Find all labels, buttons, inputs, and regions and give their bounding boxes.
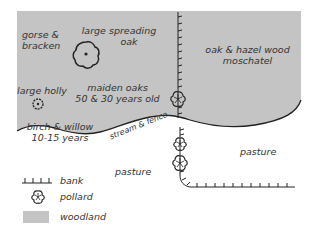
label-birch-willow: birch & willow 10-15 years	[25, 121, 95, 143]
label-maiden-oaks: maiden oaks 50 & 30 years old	[75, 82, 160, 104]
label-spreading-oak: large spreading oak	[74, 25, 164, 47]
label-line: oak & hazel wood	[200, 44, 295, 55]
label-line: birch & willow	[25, 121, 95, 132]
label-large-holly: large holly	[17, 85, 67, 96]
label-line: pasture	[240, 146, 276, 157]
label-line: large holly	[17, 85, 67, 96]
legend-pollard-label: pollard	[60, 191, 93, 202]
label-line: large spreading	[74, 25, 164, 36]
legend-woodland-swatch	[23, 211, 49, 223]
label-oak-hazel: oak & hazel wood moschatel	[200, 44, 295, 66]
label-line: pasture	[115, 166, 151, 177]
bank-pasture-edge	[180, 127, 295, 187]
label-line: oak	[74, 36, 164, 47]
label-line: maiden oaks	[75, 82, 160, 93]
legend-bank-icon	[22, 178, 52, 183]
legend-bank-label: bank	[60, 175, 83, 186]
label-gorse-bracken: gorse & bracken	[22, 29, 60, 51]
legend-woodland-label: woodland	[60, 211, 106, 222]
label-pasture-left: pasture	[115, 166, 151, 177]
label-line: gorse &	[22, 29, 60, 40]
label-line: 10-15 years	[25, 132, 95, 143]
label-line: moschatel	[200, 55, 295, 66]
legend-pollard-icon	[32, 191, 45, 203]
label-line: 50 & 30 years old	[75, 93, 160, 104]
label-line: bracken	[22, 40, 60, 51]
label-pasture-right: pasture	[240, 146, 276, 157]
